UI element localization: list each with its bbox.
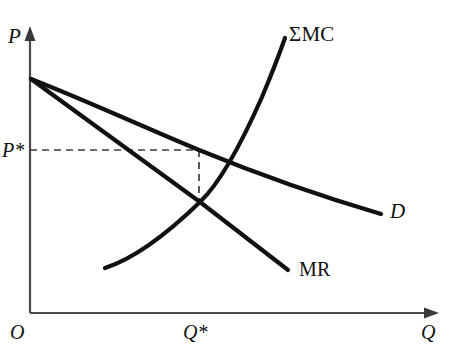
- price-star-label: P*: [2, 140, 24, 160]
- quantity-axis-label: Q: [421, 322, 435, 342]
- diagram-canvas: [0, 0, 451, 353]
- price-axis-arrowhead: [25, 26, 36, 41]
- marginal-revenue-curve: [31, 79, 288, 270]
- economics-diagram: P P* O Q Q* ΣMC D MR: [0, 0, 451, 353]
- axes-group: [25, 26, 440, 319]
- origin-label: O: [10, 322, 24, 342]
- quantity-star-label: Q*: [183, 322, 207, 342]
- marginal-revenue-curve-label: MR: [299, 259, 331, 279]
- demand-curve-label: D: [390, 201, 405, 222]
- marginal-cost-curve-label: ΣMC: [289, 24, 335, 45]
- price-axis-label: P: [8, 26, 21, 47]
- guide-lines-group: [30, 150, 199, 204]
- quantity-axis-arrowhead: [424, 308, 439, 319]
- curves-group: [31, 38, 381, 270]
